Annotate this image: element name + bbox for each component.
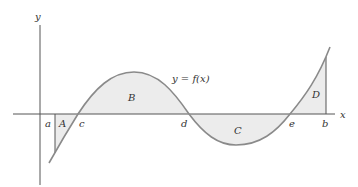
- point-a-label: a: [45, 118, 51, 129]
- region-d-fill: [290, 57, 326, 114]
- point-d-label: d: [181, 118, 187, 129]
- region-d-label: D: [311, 89, 320, 100]
- region-b-label: B: [127, 92, 135, 103]
- y-axis-label: y: [34, 11, 41, 22]
- point-b-label: b: [322, 118, 328, 129]
- region-a-label: A: [58, 118, 66, 129]
- point-c-label: c: [79, 118, 85, 129]
- function-label: y = f(x): [171, 73, 210, 84]
- area-diagram: y x y = f(x) a c d e b A B C D: [0, 0, 358, 187]
- point-e-label: e: [289, 118, 295, 129]
- x-axis-label: x: [340, 109, 346, 120]
- region-c-label: C: [234, 125, 242, 136]
